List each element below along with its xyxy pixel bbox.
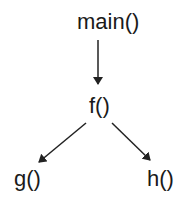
edge-f-to-g [39,123,86,162]
node-main: main() [77,11,139,33]
node-f: f() [89,95,110,117]
node-h: h() [147,168,174,190]
node-g: g() [14,168,41,190]
edge-f-to-h [112,123,150,160]
